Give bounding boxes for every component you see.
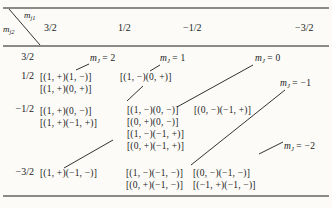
mj-label-0: mJ = 0 bbox=[255, 53, 281, 64]
state-entry: [(1, +)(1, −)] bbox=[40, 71, 92, 83]
cell-r1-c0: [(1, +)(1, −)] [(1, +)(0, +)] bbox=[40, 71, 92, 95]
mj0-diagonal-lower bbox=[64, 140, 113, 168]
mj-minus2-pointer-line bbox=[259, 142, 283, 154]
cell-r2-c0: [(1, +)(0, −)] [(1, +)(−1, +)] bbox=[40, 105, 97, 129]
state-entry: [(1, −)(−1, +)] bbox=[127, 128, 184, 140]
column-header-2: −1/2 bbox=[183, 23, 201, 33]
cell-r3-c1: [(1, −)(−1, −)] [(0, +)(−1, −)] bbox=[126, 167, 183, 191]
mj-label-minus2: mJ = −2 bbox=[284, 141, 315, 152]
state-entry: [(1, −)(0, +)] bbox=[120, 71, 172, 83]
state-entry: [(1, +)(−1, +)] bbox=[40, 117, 97, 129]
state-entry: [(0, +)(−1, −)] bbox=[126, 179, 183, 191]
row-header-0: 3/2 bbox=[4, 52, 34, 62]
textbook-table: mj1 mj2 3/2 1/2 −1/2 −3/2 3/2 1/2 −1/2 −… bbox=[0, 0, 332, 208]
state-entry: [(0, +)(0, −)] bbox=[127, 116, 184, 128]
cell-r3-c0: [(1, +)(−1, −)] bbox=[40, 167, 97, 179]
state-entry: [(1, +)(−1, −)] bbox=[40, 167, 97, 179]
cell-r1-c1: [(1, −)(0, +)] bbox=[120, 71, 172, 83]
column-header-1: 1/2 bbox=[118, 23, 131, 33]
corner-label-mj1: mj1 bbox=[24, 10, 36, 20]
corner-label-mj2: mj2 bbox=[3, 24, 15, 34]
state-entry: [(0, +)(−1, +)] bbox=[127, 140, 184, 152]
mj-label-1: mJ = 1 bbox=[160, 53, 186, 64]
mj-minus1-diagonal bbox=[191, 90, 285, 165]
column-header-0: 3/2 bbox=[44, 23, 57, 33]
column-header-3: −3/2 bbox=[295, 23, 313, 33]
state-entry: [(1, −)(0, −)] bbox=[127, 104, 184, 116]
state-entry: [(0, −)(−1, −)] bbox=[193, 167, 256, 179]
cell-r3-c2: [(0, −)(−1, −)] [(−1, +)(−1, −)] bbox=[193, 167, 256, 191]
mj-label-minus1: mJ = −1 bbox=[280, 78, 311, 89]
mj-label-2: mJ = 2 bbox=[90, 53, 116, 64]
state-entry: [(1, −)(−1, −)] bbox=[126, 167, 183, 179]
row-header-3: −3/2 bbox=[4, 167, 34, 177]
state-entry: [(1, +)(0, −)] bbox=[40, 105, 97, 117]
state-entry: [(−1, +)(−1, −)] bbox=[193, 179, 256, 191]
mj2-pointer-line bbox=[76, 64, 89, 70]
mj0-diagonal-upper bbox=[177, 65, 253, 107]
mj1-pointer-line-lower bbox=[127, 86, 143, 101]
state-entry: [(0, −)(−1, +)] bbox=[194, 104, 251, 116]
cell-r2-c2: [(0, −)(−1, +)] bbox=[194, 104, 251, 116]
cell-r2-c1: [(1, −)(0, −)] [(0, +)(0, −)] [(1, −)(−1… bbox=[127, 104, 184, 152]
state-entry: [(1, +)(0, +)] bbox=[40, 83, 92, 95]
row-header-2: −1/2 bbox=[4, 104, 34, 114]
row-header-1: 1/2 bbox=[4, 71, 34, 81]
